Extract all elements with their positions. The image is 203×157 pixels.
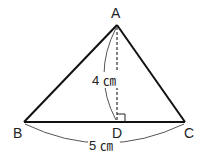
vertex-label-D: D xyxy=(112,125,122,141)
base-label: 5 ㎝ xyxy=(89,138,113,153)
vertex-label-C: C xyxy=(184,125,194,141)
height-label: 4 ㎝ xyxy=(92,73,116,88)
triangle-diagram: A B C D 4 ㎝ 5 ㎝ xyxy=(0,0,203,157)
right-angle-marker xyxy=(117,114,125,122)
side-AC xyxy=(117,25,185,122)
vertex-label-A: A xyxy=(111,5,121,21)
vertex-label-B: B xyxy=(13,125,22,141)
